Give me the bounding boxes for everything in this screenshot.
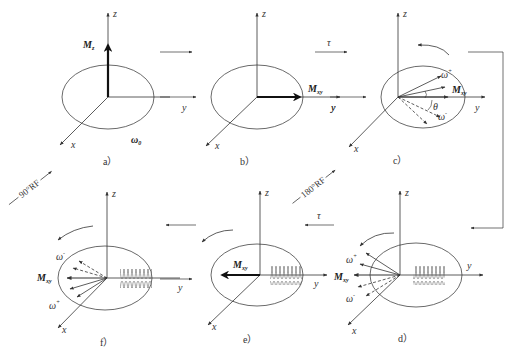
panel-f: ω- ω+ Mxy z y x f） — [36, 188, 183, 348]
omega-minus-label: ω- — [346, 292, 355, 304]
y-axis-label: y — [466, 260, 472, 271]
mz-label: Mz — [82, 39, 95, 51]
svg-text:τ: τ — [317, 210, 321, 221]
svg-text:90°RF: 90°RF — [17, 178, 42, 200]
omega-minus-label: ω- — [56, 250, 65, 262]
caption-d: d） — [398, 333, 413, 344]
rotation-arrow-icon — [360, 233, 394, 246]
z-axis-label: z — [404, 187, 409, 198]
caption-a: a） — [103, 156, 117, 167]
svg-text:180°RF: 180°RF — [299, 175, 327, 200]
z-axis-label: z — [264, 187, 269, 198]
x-axis-label: x — [351, 325, 357, 336]
x-axis-label: x — [211, 321, 217, 332]
panel-b: z y y x Mxy b） — [160, 8, 340, 167]
omega-plus-label: ω+ — [49, 299, 60, 311]
y-axis-label: y — [177, 282, 183, 293]
coil-icon — [270, 266, 302, 285]
panel-c: θ ω+ ω- Mxy z y y x c） — [330, 8, 485, 166]
caption-e: e） — [243, 334, 257, 345]
panel-e: Mxy z y x e） — [160, 187, 327, 345]
z-axis-label: z — [111, 188, 116, 199]
mxy-label: Mxy — [232, 259, 248, 271]
rotation-arrow-icon — [58, 226, 93, 240]
rotation-arrow-icon — [202, 230, 233, 242]
z-axis-label: z — [261, 8, 266, 19]
arrow-b-to-c: τ — [315, 37, 347, 52]
mxy-label: Mxy — [451, 84, 467, 96]
panel-a: z x Mz ω0 a） — [60, 8, 170, 167]
arrow-c-to-d — [468, 52, 503, 228]
x-axis-label: x — [353, 143, 359, 154]
y-axis-label: y — [474, 102, 480, 113]
x-axis-label: x — [214, 140, 220, 151]
rf180-label: 180°RF — [289, 166, 338, 207]
svg-text:τ: τ — [327, 37, 331, 48]
y-axis-label: y — [313, 278, 319, 289]
panel-d: ω+ ω- Mxy z y x d） — [333, 187, 483, 344]
mxy-label: Mxy — [333, 271, 349, 283]
coil-icon — [413, 266, 445, 285]
rotation-arrow-icon — [418, 45, 449, 55]
caption-f: f） — [100, 337, 113, 348]
arrow-d-to-e: τ — [305, 210, 334, 225]
caption-c: c） — [393, 155, 407, 166]
rf90-label: 90°RF — [6, 167, 55, 208]
omega-minus-label: ω- — [438, 110, 447, 122]
caption-b: b） — [240, 156, 255, 167]
mxy-label: Mxy — [36, 272, 52, 284]
spin-echo-diagram: z x Mz ω0 a） 90°RF z y y x Mxy b） 180°RF… — [0, 0, 510, 354]
x-axis-label: x — [70, 139, 76, 150]
z-axis-label: z — [402, 8, 407, 19]
z-axis-label: z — [112, 8, 117, 19]
y-axis-label-a: y — [181, 102, 187, 113]
coil-icon — [120, 269, 152, 288]
x-axis-label: x — [61, 324, 67, 335]
omega0-label: ω0 — [131, 134, 141, 146]
omega-plus-label: ω+ — [346, 253, 357, 265]
mxy-label: Mxy — [307, 83, 323, 95]
y-axis-label-b: y — [330, 102, 336, 113]
